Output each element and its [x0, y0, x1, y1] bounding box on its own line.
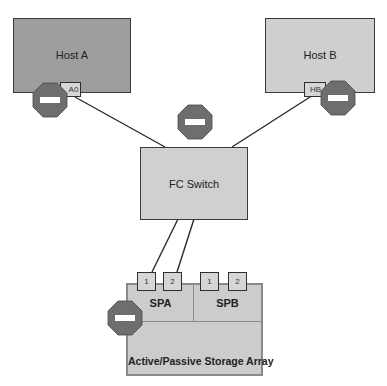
- stop-icon-host-b: [321, 81, 355, 115]
- stop-icon-storage-array: [108, 301, 142, 335]
- stop-signs: [0, 0, 387, 386]
- stop-icon-fc-switch: [178, 105, 212, 139]
- stop-icon-host-a: [33, 83, 67, 117]
